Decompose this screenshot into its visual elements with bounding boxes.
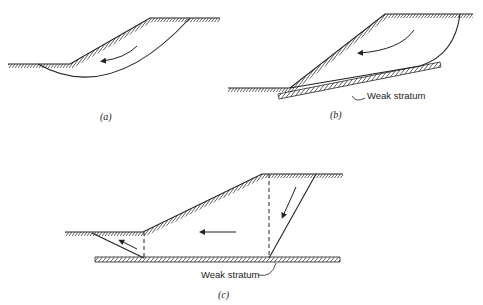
panel-b: Weak stratum (b): [228, 14, 473, 121]
weak-stratum-label-c: Weak stratum: [201, 269, 260, 280]
panel-c: Weak stratum (c): [65, 174, 343, 301]
slope-failure-diagram: (a) Weak stratum (b) Weak stratum (c): [0, 0, 483, 305]
panel-a: (a): [8, 18, 220, 123]
weak-stratum-label-b: Weak stratum: [367, 90, 426, 101]
caption-b: (b): [330, 109, 342, 121]
caption-a: (a): [100, 111, 112, 123]
caption-c: (c): [218, 289, 230, 301]
